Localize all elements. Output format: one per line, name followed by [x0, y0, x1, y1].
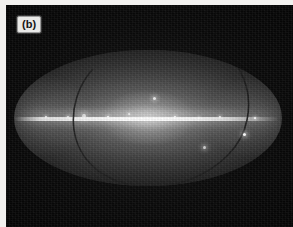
diffuse-halo-right-limb [14, 50, 282, 186]
point-source [128, 113, 130, 115]
polar-shading-top [14, 50, 282, 186]
figure-panel: (b) [0, 0, 293, 227]
sky-image-plate: (b) [6, 5, 293, 227]
point-source [45, 116, 47, 118]
galactic-bulge-glow [14, 50, 282, 186]
point-source [243, 133, 246, 136]
point-source [254, 117, 256, 119]
point-source [203, 146, 206, 149]
point-source [219, 116, 221, 118]
diffuse-halo-broad [14, 50, 282, 186]
point-source [198, 117, 200, 119]
diffuse-halo-left-limb [14, 50, 282, 186]
point-source [82, 114, 86, 118]
galactic-plane-glow [14, 110, 282, 125]
mollweide-sky-map [14, 50, 282, 186]
point-source [174, 116, 176, 118]
panel-label: (b) [17, 16, 41, 33]
ecliptic-curve [14, 50, 282, 186]
point-source [67, 116, 69, 118]
galactic-plane-band [14, 117, 282, 121]
point-source [153, 97, 156, 100]
polar-shading-bottom [14, 50, 282, 186]
point-source [107, 116, 109, 118]
